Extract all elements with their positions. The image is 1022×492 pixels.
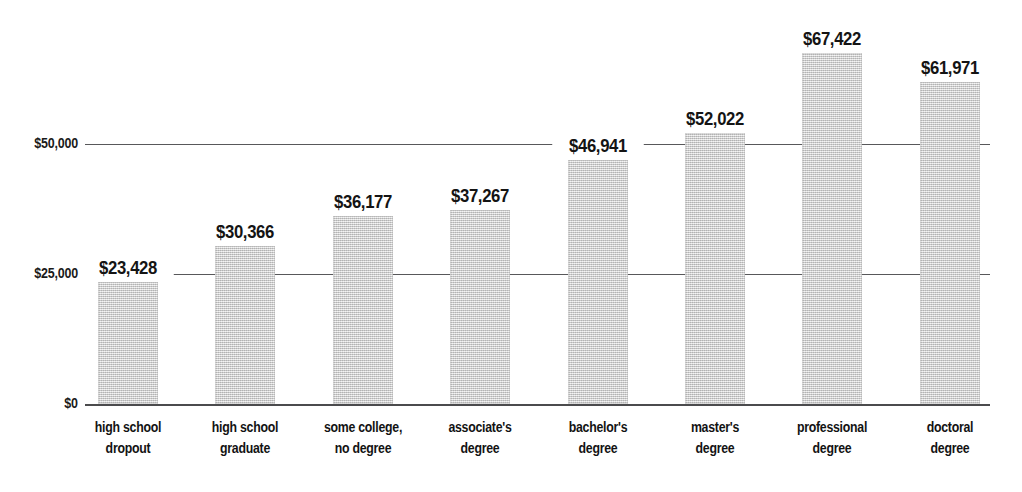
bar[interactable] [98, 282, 158, 404]
y-axis-tick-25000: $25,000 [0, 265, 78, 283]
x-axis-category-label: high school dropout [77, 417, 179, 459]
y-axis-tick-50000: $50,000 [0, 135, 78, 153]
bar[interactable] [215, 246, 275, 404]
bar-value-label: $61,971 [904, 57, 996, 79]
bar-value-label: $37,267 [434, 185, 526, 207]
bar-value-label: $46,941 [552, 135, 644, 157]
x-axis-category-label: master's degree [664, 417, 766, 459]
x-axis-line [85, 404, 990, 406]
bar[interactable] [802, 53, 862, 404]
y-axis-tick-0: $0 [0, 395, 78, 413]
bar-value-label: $67,422 [787, 28, 879, 50]
bar-value-label: $52,022 [669, 108, 761, 130]
x-axis-category-label: associate's degree [429, 417, 531, 459]
bar[interactable] [333, 216, 393, 404]
y-axis-tick-label: $0 [64, 395, 78, 411]
bar-value-label: $36,177 [317, 191, 409, 213]
bar-value-label: $30,366 [200, 221, 292, 243]
bar[interactable] [450, 210, 510, 404]
y-axis-tick-label: $25,000 [34, 265, 78, 281]
x-axis-category-label: professional degree [781, 417, 883, 459]
x-axis-category-label: doctoral degree [899, 417, 1001, 459]
bar-value-label: $23,428 [82, 257, 174, 279]
bar[interactable] [568, 160, 628, 404]
plot-area: $0$25,000$50,000$23,428high school dropo… [0, 0, 1022, 492]
x-axis-category-label: high school graduate [194, 417, 296, 459]
bar-chart: $0$25,000$50,000$23,428high school dropo… [0, 0, 1022, 492]
bar[interactable] [920, 82, 980, 404]
x-axis-category-label: some college, no degree [312, 417, 414, 459]
bar[interactable] [685, 133, 745, 404]
x-axis-category-label: bachelor's degree [547, 417, 649, 459]
y-axis-tick-label: $50,000 [34, 135, 78, 151]
